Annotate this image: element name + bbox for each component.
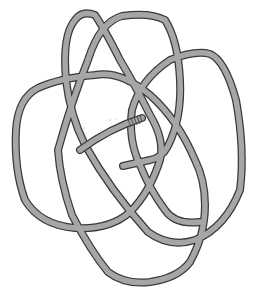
- knot-diagram-svg: [0, 0, 253, 303]
- knot-figure: Single rope tied into a complex interlac…: [0, 0, 253, 303]
- rope: [16, 13, 242, 282]
- rope-body: [16, 13, 242, 282]
